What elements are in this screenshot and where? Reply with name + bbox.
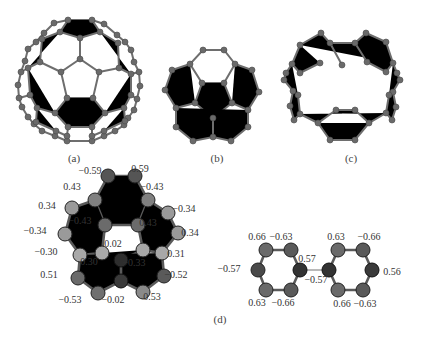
charge-label: −0.30 [34, 246, 57, 257]
figure-canvas: (a) (b) (c) (d) −0.590.590.43−0.430.34−0… [0, 0, 427, 344]
charge-label: −0.43 [140, 181, 163, 192]
charge-label: −0.63 [269, 231, 292, 242]
charge-label: 0.43 [139, 217, 157, 228]
c60-full-cage [15, 17, 143, 144]
charge-label: −0.52 [164, 269, 187, 280]
panel-label-b: (b) [211, 152, 224, 165]
c60-fragment-b [162, 47, 262, 144]
charge-label: 0.57 [298, 253, 316, 264]
charge-label: 0.43 [63, 181, 81, 192]
charge-label: −0.33 [122, 257, 145, 268]
charge-label: −0.57 [304, 274, 327, 285]
charge-label: 0.34 [38, 200, 56, 211]
charge-label: 0.30 [80, 256, 98, 267]
charge-label: 0.66 [248, 231, 266, 242]
charge-label: 0.34 [181, 227, 199, 238]
charge-label: −0.34 [23, 225, 46, 236]
c60-fragment-c [281, 30, 403, 143]
panel-label-d: (d) [214, 313, 227, 326]
charge-label: 0.53 [143, 291, 161, 302]
charge-label: −0.43 [68, 215, 91, 226]
charge-label: 0.51 [40, 269, 58, 280]
charge-label: 0.56 [383, 266, 401, 277]
charge-label: 0.59 [131, 163, 149, 174]
charge-label: −0.59 [78, 165, 101, 176]
charge-label: 0.02 [104, 238, 122, 249]
charge-label: −0.34 [172, 203, 195, 214]
charge-label: 0.63 [327, 231, 345, 242]
charge-label: −0.53 [58, 294, 81, 305]
charged-fragment-d-right [251, 243, 379, 297]
charge-label: −0.66 [271, 297, 294, 308]
panel-label-a: (a) [68, 152, 81, 165]
charge-label: 0.31 [167, 248, 185, 259]
charge-label: −0.02 [101, 294, 124, 305]
charge-label: −0.57 [217, 263, 240, 274]
charge-label: 0.63 [248, 297, 266, 308]
charge-label: 0.66 [333, 298, 351, 309]
panel-label-c: (c) [345, 152, 358, 165]
charge-label: −0.63 [353, 298, 376, 309]
charge-label: −0.66 [357, 231, 380, 242]
